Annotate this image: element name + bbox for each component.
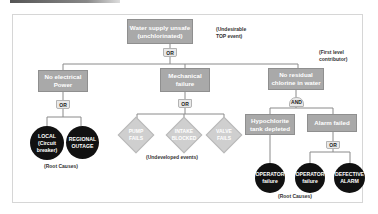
hypochlorite-tank-depleted-box: Hypochlorite tank depleted	[245, 114, 295, 135]
valve-fails-label: VALVE FAILS	[206, 117, 242, 153]
undeveloped-events-annotation: (Undeveloped events)	[146, 154, 198, 161]
root-cause-operator-failure-alarm: OPERATOR failure	[295, 163, 325, 193]
pump-fails-label: PUMP FAILS	[118, 117, 154, 153]
undeveloped-valve-fails: VALVE FAILS	[206, 117, 242, 153]
no-residual-chlorine-box: No residual chlorine in water	[268, 68, 324, 90]
intake-blocked-label: INTAKE BLOCKED	[166, 117, 202, 153]
root-cause-defective-alarm: DEFECTIVE ALARM	[334, 163, 365, 193]
top-or-gate: OR	[163, 48, 177, 57]
top-event-box: Water supply unsafe (unchlorinated)	[127, 19, 193, 44]
root-cause-local-circuit-breaker: LOCAL (Circuit breaker)	[30, 126, 64, 160]
root-causes-annotation-left: (Root Causes)	[44, 163, 78, 170]
root-cause-operator-failure-tank: OPERATOR failure	[255, 163, 285, 193]
no-electrical-power-box: No electrical Power	[38, 70, 88, 92]
mechanical-failure-box: Mechanical failure	[160, 68, 210, 92]
mechanical-or-gate: OR	[178, 99, 192, 108]
alarm-or-gate: OR	[326, 141, 340, 149]
root-cause-regional-outage: REGIONAL OUTAGE	[66, 126, 99, 159]
chlorine-and-gate: AND	[289, 97, 304, 107]
electrical-or-gate: OR	[56, 100, 70, 109]
undeveloped-intake-blocked: INTAKE BLOCKED	[166, 117, 202, 153]
undeveloped-pump-fails: PUMP FAILS	[118, 117, 154, 153]
alarm-failed-box: Alarm failed	[307, 114, 357, 132]
root-causes-annotation-right: (Root Causes)	[278, 193, 312, 200]
top-event-annotation: (Undesirable TOP event)	[216, 26, 246, 40]
first-level-annotation: (First level contributor)	[319, 49, 347, 63]
